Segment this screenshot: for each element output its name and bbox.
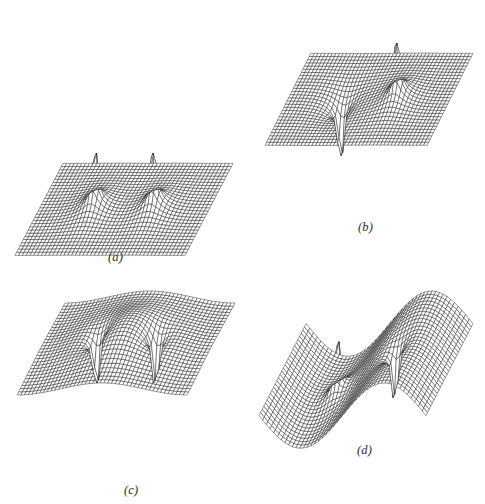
mesh-quads xyxy=(17,291,235,395)
four-panel-surface-figure: (a) (b) (c) (d) xyxy=(0,0,485,504)
panel-c-label: (c) xyxy=(124,483,138,498)
panel-d-surface-plot xyxy=(256,288,476,451)
mesh-quads xyxy=(259,291,473,448)
surface-mesh-a xyxy=(12,150,236,258)
panel-b-label: (b) xyxy=(358,220,373,235)
mesh-quads xyxy=(15,153,233,255)
panel-a-label: (a) xyxy=(108,250,123,265)
panel-c-surface-plot xyxy=(14,288,238,398)
mesh-quads xyxy=(265,43,473,156)
surface-mesh-c xyxy=(14,288,238,398)
surface-mesh-d xyxy=(256,288,476,451)
panel-a-surface-plot xyxy=(12,150,236,258)
surface-mesh-b xyxy=(262,40,476,159)
panel-b-surface-plot xyxy=(262,40,476,159)
panel-d-label: (d) xyxy=(357,443,372,458)
